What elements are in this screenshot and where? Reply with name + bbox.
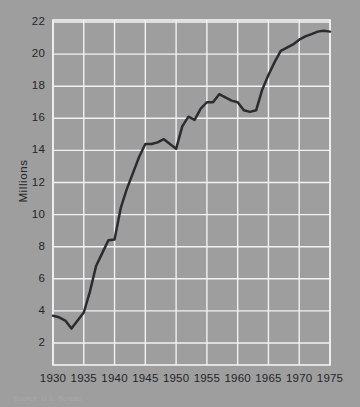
- y-tick-label: 2: [17, 336, 45, 348]
- y-tick-label: 18: [17, 79, 45, 91]
- y-tick-label: 20: [17, 47, 45, 59]
- plot-border: [53, 20, 330, 365]
- gridlines: [53, 20, 330, 365]
- y-tick-label: 12: [17, 176, 45, 188]
- y-tick-label: 14: [17, 143, 45, 155]
- y-tick-label: 16: [17, 111, 45, 123]
- x-tick-label: 1975: [310, 372, 350, 384]
- data-series-line: [53, 31, 330, 329]
- source-note: Source: U.S. Bureau: [14, 395, 82, 402]
- line-chart-plot: [0, 0, 360, 407]
- y-tick-label: 8: [17, 240, 45, 252]
- y-tick-label: 22: [17, 15, 45, 27]
- y-tick-label: 6: [17, 272, 45, 284]
- y-tick-label: 10: [17, 208, 45, 220]
- chart-figure: Millions 222018161412108642 193019351940…: [0, 0, 360, 407]
- y-tick-label: 4: [17, 304, 45, 316]
